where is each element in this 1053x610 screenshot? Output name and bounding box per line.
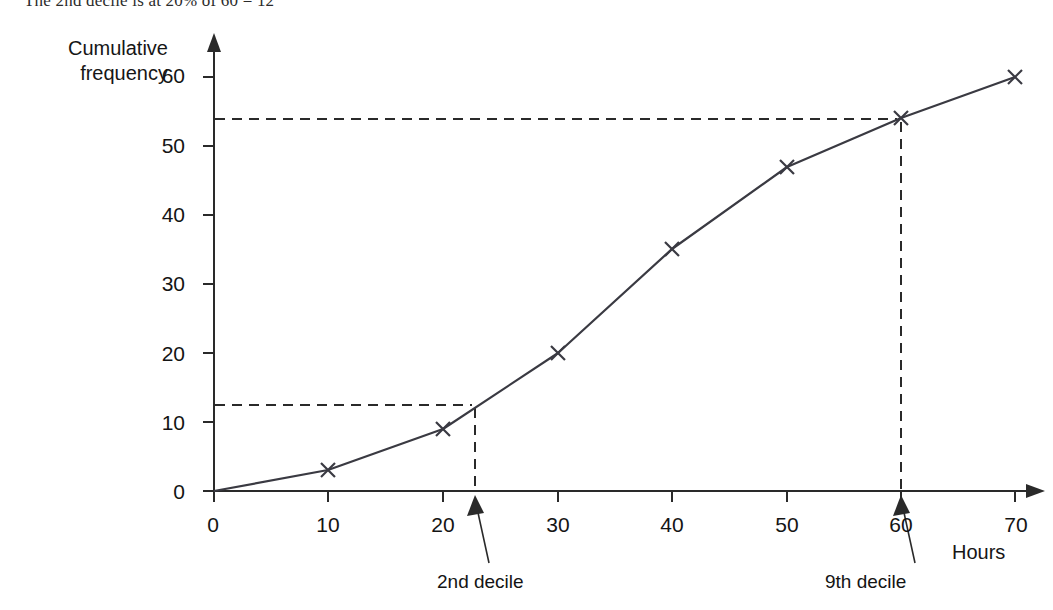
x-tick-label-10: 10 (308, 513, 348, 537)
x-tick-label-70: 70 (996, 513, 1036, 537)
annotation-label-2nd-decile: 2nd decile (437, 571, 524, 593)
y-tick-label-40: 40 (145, 203, 185, 227)
x-axis-ticks (214, 491, 1015, 502)
annotation-label-9th-decile: 9th decile (825, 571, 906, 593)
y-tick-label-30: 30 (145, 272, 185, 296)
y-tick-label-60: 60 (145, 64, 185, 88)
guide-9th-decile (215, 119, 901, 489)
data-point-20 (436, 422, 450, 436)
y-tick-label-0: 0 (145, 480, 185, 504)
data-point-30 (551, 346, 565, 360)
x-tick-label-20: 20 (423, 513, 463, 537)
x-tick-label-60: 60 (881, 513, 921, 537)
y-tick-label-20: 20 (145, 342, 185, 366)
cumulative-frequency-chart: The 2nd decile is at 20% of 60 = 12 Cumu… (0, 0, 1053, 610)
data-point-40 (665, 242, 679, 256)
x-axis-title: Hours (952, 540, 1042, 565)
data-point-markers (321, 70, 1022, 477)
y-tick-label-10: 10 (145, 411, 185, 435)
x-tick-label-0: 0 (193, 513, 233, 537)
annotation-arrow-2nd-decile (467, 495, 489, 563)
clipped-header-text: The 2nd decile is at 20% of 60 = 12 (24, 0, 444, 7)
x-tick-label-40: 40 (652, 513, 692, 537)
x-axis (214, 484, 1045, 498)
y-axis (207, 33, 221, 492)
guide-2nd-decile (215, 405, 475, 489)
y-tick-label-50: 50 (145, 134, 185, 158)
y-axis-ticks (203, 77, 214, 491)
x-tick-label-50: 50 (767, 513, 807, 537)
data-point-50 (780, 160, 794, 174)
cumulative-frequency-curve (214, 77, 1015, 491)
data-point-70 (1008, 70, 1022, 84)
x-tick-label-30: 30 (538, 513, 578, 537)
y-axis-title: Cumulative frequency (8, 36, 168, 86)
